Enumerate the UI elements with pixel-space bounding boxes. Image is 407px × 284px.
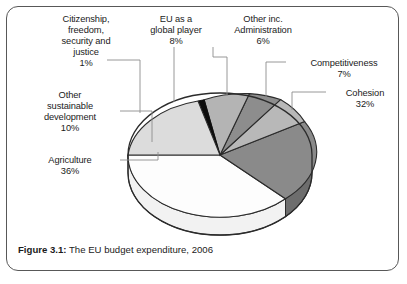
label-other-admin-value: 6% [256, 36, 269, 46]
label-other-sustainable-value: 10% [61, 123, 79, 133]
leader-other-admin [213, 47, 227, 96]
label-other-admin-l1: Other inc. [243, 14, 282, 24]
figure-container: Citizenship, freedom, security and justi… [0, 0, 407, 284]
label-other-admin-l2: Administration [234, 25, 292, 35]
leader-cohesion [292, 92, 326, 110]
label-other-sustainable-l3: development [44, 112, 96, 122]
label-other-administration: Other inc. Administration 6% [218, 14, 308, 47]
label-competitiveness-l1: Competitiveness [310, 58, 377, 68]
label-eu-global-value: 8% [169, 36, 182, 46]
pie-chart: Citizenship, freedom, security and justi… [0, 0, 407, 284]
label-agriculture-l1: Agriculture [48, 155, 91, 165]
leader-competitiveness [266, 62, 286, 100]
label-cohesion-value: 32% [356, 99, 374, 109]
label-eu-global-player: EU as a global player 8% [140, 14, 212, 47]
label-agriculture-value: 36% [61, 166, 79, 176]
label-citizenship: Citizenship, freedom, security and justi… [38, 14, 134, 69]
label-other-sustainable-l2: sustainable [47, 101, 93, 111]
label-cohesion: Cohesion 32% [330, 88, 400, 110]
label-citizenship-l2: freedom, [68, 25, 104, 35]
figure-caption-text: The EU budget expenditure, 2006 [67, 244, 214, 255]
label-agriculture: Agriculture 36% [22, 155, 118, 177]
label-citizenship-l4: justice [73, 47, 99, 57]
label-citizenship-l3: security and [62, 36, 111, 46]
figure-caption: Figure 3.1: The EU budget expenditure, 2… [18, 244, 213, 255]
label-other-sustainable-l1: Other [59, 90, 82, 100]
label-citizenship-l1: Citizenship, [63, 14, 110, 24]
label-cohesion-l1: Cohesion [346, 88, 384, 98]
label-eu-global-l2: global player [150, 25, 201, 35]
figure-caption-label: Figure 3.1: [18, 244, 67, 255]
label-other-sustainable: Other sustainable development 10% [22, 90, 118, 134]
label-competitiveness-value: 7% [337, 69, 350, 79]
label-citizenship-value: 1% [79, 58, 92, 68]
label-eu-global-l1: EU as a [160, 14, 192, 24]
label-competitiveness: Competitiveness 7% [290, 58, 398, 80]
